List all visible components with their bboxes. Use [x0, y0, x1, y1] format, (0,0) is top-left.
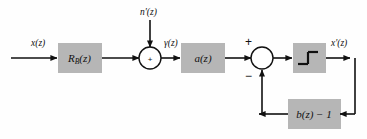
- summer-1-plus: +: [148, 55, 153, 64]
- block-rb-label: RB(z): [67, 52, 91, 66]
- summer-2-plus-sign: +: [245, 35, 252, 49]
- signal-label-gamma: γ(z): [164, 38, 178, 49]
- block-rb-label-suffix: (z): [79, 52, 91, 65]
- summer-2-minus-sign: −: [245, 69, 252, 83]
- signal-label-output: x'(z): [330, 38, 347, 49]
- signal-label-noise: n'(z): [140, 7, 157, 18]
- diagram-canvas: + RB(z) a(z) b(z) − 1 x(z) n'(z) γ(z) x'…: [0, 0, 367, 139]
- signal-label-input: x(z): [30, 38, 45, 49]
- block-diagram: + RB(z) a(z) b(z) − 1 x(z) n'(z) γ(z) x'…: [0, 0, 367, 139]
- block-feedback-label: b(z) − 1: [296, 108, 332, 121]
- summer-2: [251, 47, 273, 69]
- block-a-label: a(z): [194, 52, 211, 65]
- block-quantizer-rect: [293, 43, 326, 73]
